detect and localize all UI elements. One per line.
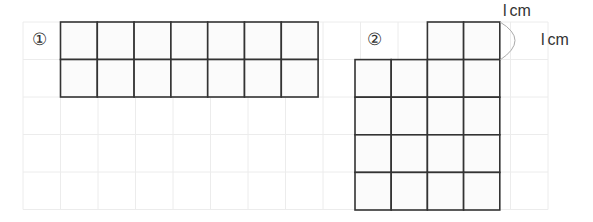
scale-h-unit: cm — [510, 2, 531, 19]
shape-1-marker: ① — [32, 29, 47, 50]
unit-square — [427, 22, 463, 60]
unit-square — [464, 60, 500, 98]
scale-h-digit: l — [503, 2, 507, 19]
scale-label-vertical: lcm — [541, 31, 569, 49]
unit-square — [427, 172, 463, 210]
unit-square — [464, 172, 500, 210]
unit-square — [391, 97, 427, 135]
unit-square — [464, 135, 500, 173]
unit-square — [427, 135, 463, 173]
unit-square — [355, 60, 391, 98]
unit-square — [134, 22, 171, 60]
unit-square — [391, 135, 427, 173]
unit-square — [171, 60, 208, 98]
unit-square — [355, 135, 391, 173]
scale-v-unit: cm — [548, 31, 569, 48]
scale-label-horizontal: lcm — [503, 2, 531, 20]
unit-square — [355, 97, 391, 135]
unit-square — [427, 60, 463, 98]
unit-square — [281, 60, 318, 98]
unit-square — [97, 22, 134, 60]
unit-square — [281, 22, 318, 60]
unit-square — [97, 60, 134, 98]
scale-v-digit: l — [541, 31, 545, 48]
shape-2 — [355, 22, 500, 210]
unit-square — [171, 22, 208, 60]
unit-square — [391, 60, 427, 98]
grid-figure — [0, 0, 593, 222]
unit-square — [61, 60, 98, 98]
unit-square — [245, 60, 282, 98]
shape-1 — [61, 22, 319, 97]
unit-square — [61, 22, 98, 60]
shape-2-marker: ② — [367, 29, 382, 50]
unit-square — [355, 172, 391, 210]
unit-square — [245, 22, 282, 60]
unit-square — [464, 97, 500, 135]
scale-brace-icon — [500, 22, 515, 60]
unit-square — [208, 60, 245, 98]
unit-square — [134, 60, 171, 98]
unit-square — [464, 22, 500, 60]
unit-square — [391, 172, 427, 210]
unit-square — [208, 22, 245, 60]
unit-square — [427, 97, 463, 135]
